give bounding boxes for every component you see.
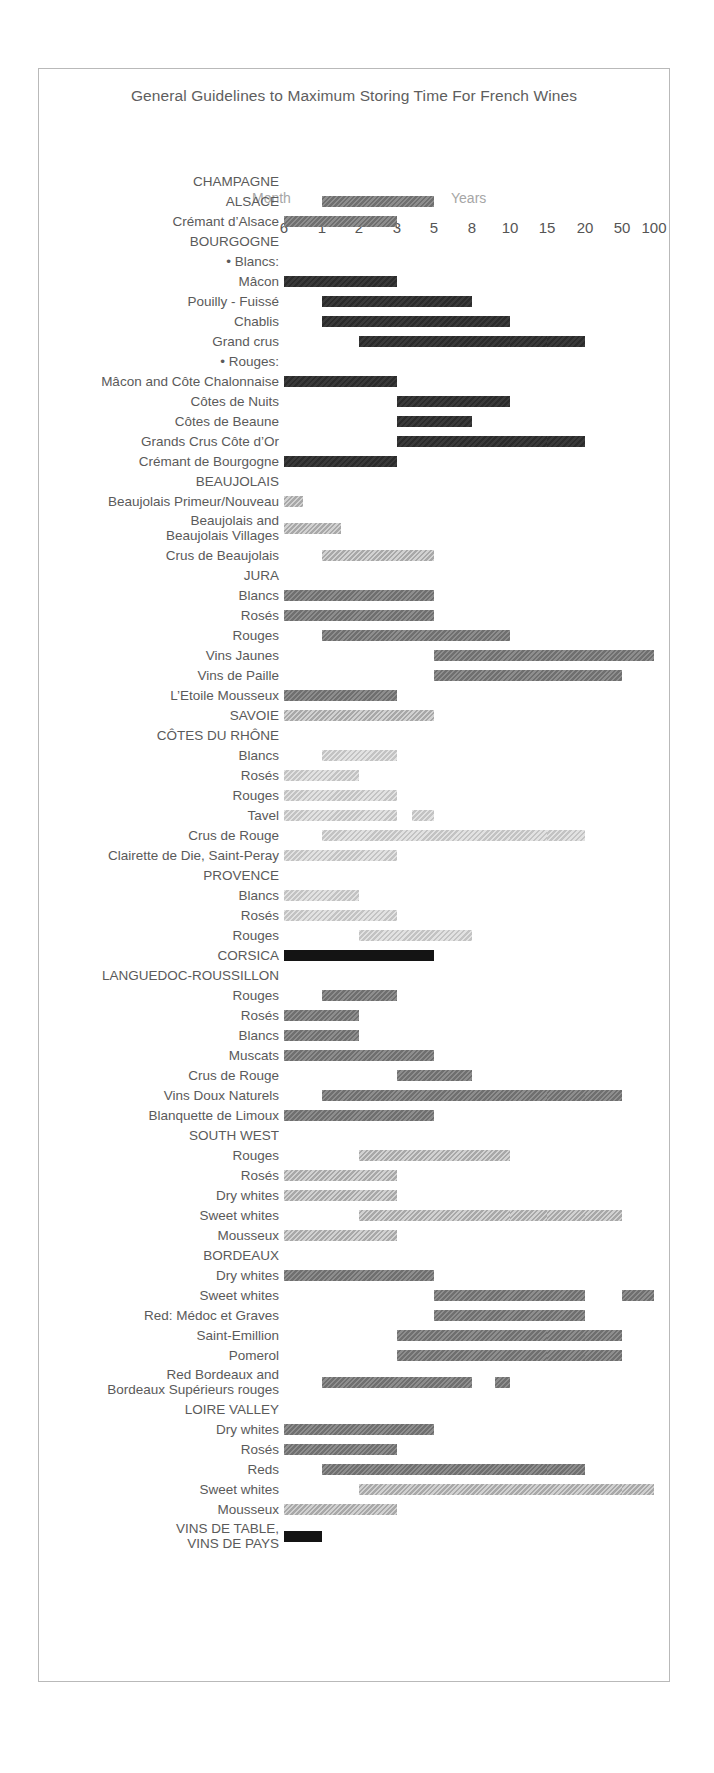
row-label: Grand crus: [212, 334, 279, 349]
bar-segment: [397, 1350, 547, 1361]
row-label: Beaujolais and Beaujolais Villages: [166, 513, 279, 543]
chart-row: Beaujolais and Beaujolais Villages: [39, 511, 671, 545]
chart-row: Blancs: [39, 585, 671, 605]
row-label: Blancs: [238, 748, 279, 763]
row-label: ALSACE: [226, 194, 279, 209]
bar-segment: [359, 1210, 510, 1221]
row-label: Red: Médoc et Graves: [144, 1308, 279, 1323]
row-label: Rouges: [232, 988, 279, 1003]
bar-segment: [434, 1290, 585, 1301]
chart-row: Rouges: [39, 625, 671, 645]
chart-row: Chablis: [39, 311, 671, 331]
row-label: Crus de Rouge: [188, 828, 279, 843]
row-label: Red Bordeaux and Bordeaux Supérieurs rou…: [107, 1367, 279, 1397]
bar-segment: [284, 523, 341, 534]
row-label: SAVOIE: [230, 708, 279, 723]
bar-segment: [547, 830, 585, 841]
bar-segment: [284, 1050, 434, 1061]
chart-row: Reds: [39, 1459, 671, 1479]
row-label: Rosés: [241, 1168, 279, 1183]
chart-row: Blancs: [39, 1025, 671, 1045]
chart-row: • Blancs:: [39, 251, 671, 271]
bar-segment: [547, 436, 585, 447]
bar-segment: [322, 830, 510, 841]
bar-segment: [284, 910, 397, 921]
bar-segment: [412, 810, 434, 821]
bar-segment: [284, 1270, 434, 1281]
chart-row: Vins Jaunes: [39, 645, 671, 665]
chart-row: Beaujolais Primeur/Nouveau: [39, 491, 671, 511]
chart-row: CORSICA: [39, 945, 671, 965]
chart-row: Crus de Rouge: [39, 1065, 671, 1085]
bar-segment: [284, 1110, 434, 1121]
bar-segment: [322, 196, 434, 207]
chart-row: BORDEAUX: [39, 1245, 671, 1265]
row-label: Crus de Rouge: [188, 1068, 279, 1083]
row-label: Vins Doux Naturels: [164, 1088, 279, 1103]
chart-row: Rosés: [39, 765, 671, 785]
bar-segment: [510, 1464, 547, 1475]
chart-row: Saint-Emillion: [39, 1325, 671, 1345]
row-label: CÔTES DU RHÔNE: [157, 728, 279, 743]
chart-row: Rosés: [39, 1165, 671, 1185]
chart-row: Pouilly - Fuissé: [39, 291, 671, 311]
chart-row: Côtes de Nuits: [39, 391, 671, 411]
bar-segment: [547, 1350, 585, 1361]
row-label: Rosés: [241, 908, 279, 923]
bar-segment: [510, 830, 547, 841]
bar-segment: [397, 396, 510, 407]
row-label: Mâcon and Côte Chalonnaise: [101, 374, 279, 389]
chart-row: Grands Crus Côte d’Or: [39, 431, 671, 451]
bar-segment: [434, 1310, 585, 1321]
chart-row: Sweet whites: [39, 1205, 671, 1225]
bar-segment: [284, 1504, 397, 1515]
bar-segment: [284, 1170, 397, 1181]
bar-segment: [322, 550, 434, 561]
bar-segment: [322, 750, 397, 761]
bar-segment: [510, 436, 547, 447]
chart-row: Blanquette de Limoux: [39, 1105, 671, 1125]
bar-segment: [284, 850, 397, 861]
bar-segment: [322, 630, 510, 641]
chart-row: Red Bordeaux and Bordeaux Supérieurs rou…: [39, 1365, 671, 1399]
row-label: Rosés: [241, 1442, 279, 1457]
chart-row: Vins de Paille: [39, 665, 671, 685]
chart-row: Crus de Beaujolais: [39, 545, 671, 565]
bar-segment: [434, 650, 654, 661]
bar-segment: [284, 496, 303, 507]
chart-row: Sweet whites: [39, 1285, 671, 1305]
bar-segment: [284, 216, 397, 227]
chart-row: LOIRE VALLEY: [39, 1399, 671, 1419]
chart-row: SAVOIE: [39, 705, 671, 725]
bar-segment: [284, 690, 397, 701]
row-label: Beaujolais Primeur/Nouveau: [108, 494, 279, 509]
bar-segment: [495, 1377, 510, 1388]
chart-row: Rosés: [39, 1005, 671, 1025]
row-label: Mâcon: [238, 274, 279, 289]
chart-row: Rouges: [39, 985, 671, 1005]
chart-row: Mousseux: [39, 1225, 671, 1245]
row-label: Crémant de Bourgogne: [139, 454, 279, 469]
bar-segment: [284, 1230, 397, 1241]
bar-segment: [585, 1330, 622, 1341]
bar-segment: [322, 296, 472, 307]
page-title: General Guidelines to Maximum Storing Ti…: [39, 87, 669, 105]
row-label: Rouges: [232, 1148, 279, 1163]
bar-segment: [284, 1444, 397, 1455]
bar-segment: [547, 1090, 585, 1101]
row-label: Clairette de Die, Saint-Peray: [108, 848, 279, 863]
row-label: CHAMPAGNE: [193, 174, 279, 189]
chart-row: ALSACE: [39, 191, 671, 211]
bar-segment: [397, 416, 472, 427]
bar-segment: [585, 1484, 622, 1495]
row-label: Côtes de Beaune: [175, 414, 279, 429]
bar-segment: [397, 1070, 472, 1081]
chart-row: Mâcon: [39, 271, 671, 291]
row-label: Crus de Beaujolais: [166, 548, 279, 563]
row-label: LANGUEDOC-ROUSSILLON: [102, 968, 279, 983]
chart-row: Mâcon and Côte Chalonnaise: [39, 371, 671, 391]
row-label: Chablis: [234, 314, 279, 329]
row-label: Rosés: [241, 1008, 279, 1023]
chart-row: PROVENCE: [39, 865, 671, 885]
bar-segment: [284, 1424, 434, 1435]
